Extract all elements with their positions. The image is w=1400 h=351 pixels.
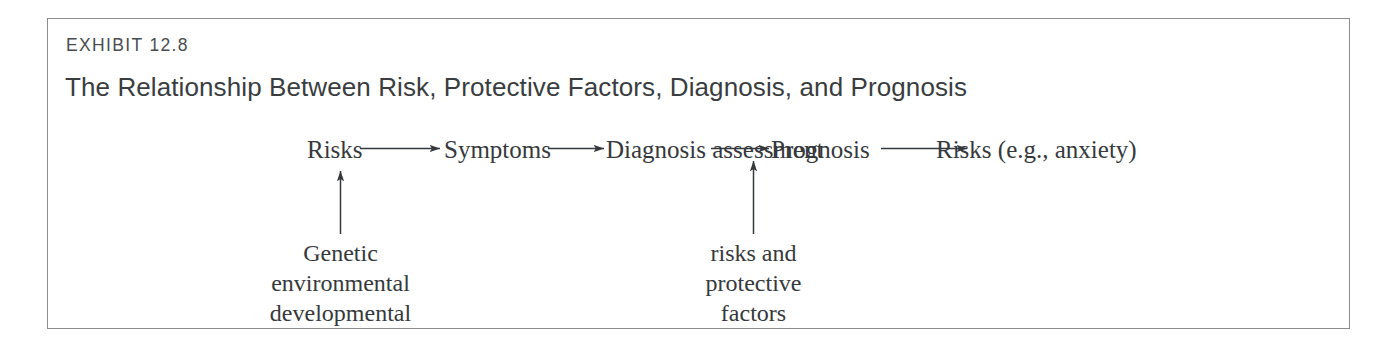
input-label-genetic-line2: environmental xyxy=(240,268,441,298)
flow-node-prognosis: Prognosis xyxy=(771,136,870,164)
flow-node-diagnosis-line1: Diagnosis xyxy=(606,136,706,163)
input-label-risk-protective: risks and protective factors xyxy=(674,238,833,329)
input-label-risk-protective-line2: protective xyxy=(674,268,833,298)
exhibit-frame: EXHIBIT 12.8 The Relationship Between Ri… xyxy=(47,18,1350,329)
flow-diagram: Risks Symptoms Diagnosis assessment Prog… xyxy=(48,19,1351,330)
input-label-risk-protective-line3: factors xyxy=(674,298,833,328)
input-label-genetic: Genetic environmental developmental xyxy=(240,238,441,329)
input-label-risk-protective-line1: risks and xyxy=(674,238,833,268)
input-label-genetic-line1: Genetic xyxy=(240,238,441,268)
flow-node-risks: Risks xyxy=(307,136,363,164)
flow-node-symptoms: Symptoms xyxy=(444,136,551,164)
input-label-genetic-line3: developmental xyxy=(240,298,441,328)
flow-node-risks-outcome: Risks (e.g., anxiety) xyxy=(936,136,1137,164)
